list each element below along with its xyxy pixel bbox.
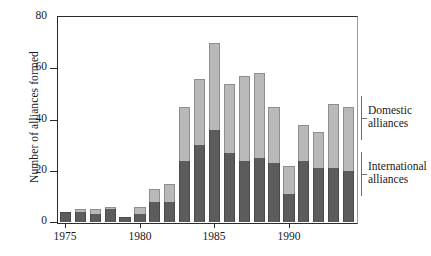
bar-1980 — [134, 207, 145, 222]
bar-1975 — [60, 212, 71, 222]
x-tick-label: 1980 — [115, 230, 165, 242]
bar-segment-international — [149, 202, 160, 223]
x-tick-mark — [65, 223, 66, 228]
bar-segment-international — [343, 171, 354, 222]
bar-segment-domestic — [134, 207, 145, 215]
bar-segment-international — [75, 212, 86, 222]
x-tick-label: 1990 — [264, 230, 314, 242]
bar-1977 — [90, 209, 101, 222]
bar-segment-international — [60, 212, 71, 222]
bar-segment-domestic — [313, 132, 324, 168]
y-tick-mark — [50, 120, 58, 121]
bar-segment-international — [179, 161, 190, 223]
y-tick-mark — [50, 68, 58, 69]
bar-1988 — [254, 73, 265, 222]
bar-1994 — [343, 107, 354, 222]
bar-segment-domestic — [268, 107, 279, 163]
bar-1979 — [119, 217, 130, 222]
bar-1981 — [149, 189, 160, 222]
bar-segment-domestic — [194, 79, 205, 146]
bar-segment-international — [119, 217, 130, 222]
legend-international-label-line2: alliances — [368, 173, 427, 186]
bar-segment-domestic — [254, 73, 265, 158]
y-tick-label: 40 — [7, 112, 47, 124]
x-tick-label: 1975 — [40, 230, 90, 242]
y-tick-label: 80 — [7, 9, 47, 21]
bar-1991 — [298, 125, 309, 222]
legend-domestic-label-line2: alliances — [368, 117, 412, 130]
y-tick-label: 60 — [7, 60, 47, 72]
bar-segment-domestic — [224, 84, 235, 153]
x-tick-mark — [214, 223, 215, 228]
bar-1976 — [75, 209, 86, 222]
bar-segment-international — [254, 158, 265, 222]
bar-1984 — [194, 79, 205, 223]
bar-1982 — [164, 184, 175, 222]
bar-1992 — [313, 132, 324, 222]
legend-domestic-label: Domesticalliances — [368, 104, 412, 129]
bar-segment-international — [224, 153, 235, 222]
bar-segment-international — [313, 168, 324, 222]
bar-segment-international — [105, 209, 116, 222]
x-tick-mark — [289, 223, 290, 228]
y-tick-label: 20 — [7, 163, 47, 175]
bar-1983 — [179, 107, 190, 222]
bar-1985 — [209, 43, 220, 222]
bar-1987 — [239, 76, 250, 222]
bar-segment-international — [283, 194, 294, 222]
bar-1978 — [105, 207, 116, 222]
bar-segment-international — [328, 168, 339, 222]
bar-segment-domestic — [149, 189, 160, 202]
bar-1993 — [328, 104, 339, 222]
bar-segment-international — [209, 130, 220, 222]
bar-1989 — [268, 107, 279, 222]
bar-segment-domestic — [343, 107, 354, 171]
plot-area — [58, 17, 356, 222]
bar-segment-international — [134, 214, 145, 222]
bar-segment-domestic — [164, 184, 175, 202]
legend-international-bracket-tick — [361, 174, 367, 175]
legend-international-label: Internationalalliances — [368, 160, 427, 185]
y-tick-mark — [50, 171, 58, 172]
y-tick-label: 0 — [7, 214, 47, 226]
alliances-stacked-bar-chart: Number of alliances formed 020406080 197… — [0, 0, 431, 256]
legend-international-label-line1: International — [368, 160, 427, 173]
legend-domestic-label-line1: Domestic — [368, 104, 412, 117]
y-tick-mark — [50, 222, 58, 223]
bar-segment-domestic — [298, 125, 309, 161]
bar-segment-international — [164, 202, 175, 223]
bar-1986 — [224, 84, 235, 222]
bar-segment-international — [194, 145, 205, 222]
bar-segment-international — [239, 161, 250, 223]
bar-segment-domestic — [283, 166, 294, 194]
bar-segment-domestic — [328, 104, 339, 168]
x-tick-label: 1985 — [189, 230, 239, 242]
bar-segment-domestic — [179, 107, 190, 161]
bar-segment-international — [90, 214, 101, 222]
bar-segment-international — [268, 163, 279, 222]
bar-segment-domestic — [209, 43, 220, 130]
legend-domestic-bracket-tick — [361, 118, 367, 119]
bar-segment-domestic — [239, 76, 250, 161]
bar-segment-international — [298, 161, 309, 223]
x-tick-mark — [140, 223, 141, 228]
bar-1990 — [283, 166, 294, 222]
